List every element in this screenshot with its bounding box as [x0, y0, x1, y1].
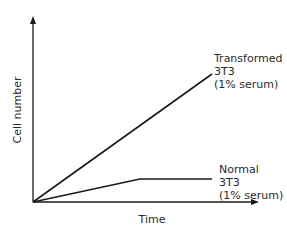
y-axis-title: Cell number	[11, 76, 24, 143]
growth-curve-chart: Transformed 3T3 (1% serum) Normal 3T3 (1…	[0, 0, 287, 236]
label-transformed: Transformed 3T3 (1% serum)	[213, 52, 282, 91]
label-normal-line1: Normal	[219, 163, 259, 176]
label-transformed-line3: (1% serum)	[214, 78, 278, 91]
label-normal-line2: 3T3	[219, 176, 240, 189]
y-axis-arrow-icon	[30, 16, 36, 24]
label-transformed-line2: 3T3	[214, 65, 235, 78]
y-axis	[30, 16, 36, 202]
x-axis-title: Time	[138, 213, 166, 226]
label-normal-line3: (1% serum)	[219, 189, 283, 202]
label-transformed-line1: Transformed	[213, 52, 282, 65]
label-normal: Normal 3T3 (1% serum)	[219, 163, 283, 202]
